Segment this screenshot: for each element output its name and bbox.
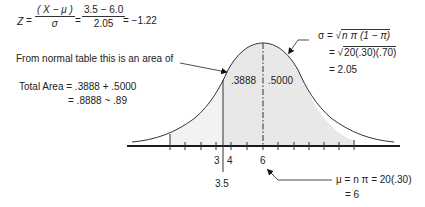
z-fraction-general: ( X − μ ) σ: [35, 4, 75, 29]
axis-label-4: 4: [227, 155, 233, 167]
total-area-line2: = .8888 ~ .89: [68, 95, 127, 107]
mu-line2: = 6: [345, 189, 359, 201]
sigma-line1-prefix: σ = √: [318, 30, 341, 41]
axis-label-3-5: 3.5: [215, 178, 229, 190]
z-equals-2: =: [75, 15, 81, 27]
tail-shading: [170, 80, 223, 146]
mu-line1: μ = n π = 20(.30): [336, 174, 411, 186]
sigma-line1-radicand: n π (1 − π): [341, 29, 390, 41]
mu-arrow: [268, 170, 332, 180]
z-symbol: Z: [17, 15, 23, 27]
z-fraction-values: 3.5 − 6.0 2.05: [82, 4, 125, 29]
z-denominator-general: σ: [35, 17, 75, 29]
z-numerator-values: 3.5 − 6.0: [82, 4, 125, 17]
area-right-label: .5000: [268, 75, 293, 87]
sigma-line2: = √20(.30)(.70): [329, 47, 396, 59]
axis-label-3: 3: [214, 155, 220, 167]
sigma-line2-radicand: 20(.30)(.70): [343, 46, 396, 58]
axis-label-6: 6: [260, 155, 266, 167]
area-left-label: .3888: [231, 75, 256, 87]
sigma-line1: σ = √n π (1 − π): [318, 30, 390, 42]
normal-table-arrow: [180, 63, 226, 72]
z-denominator-values: 2.05: [82, 17, 125, 29]
sigma-line2-prefix: = √: [329, 47, 343, 58]
normal-table-note: From normal table this is an area of: [16, 53, 173, 65]
sigma-arrow: [289, 40, 309, 53]
z-result: = −1.22: [123, 15, 157, 27]
z-equals-1: =: [26, 15, 32, 27]
sigma-line3: = 2.05: [329, 64, 357, 76]
z-numerator-general: ( X − μ ): [35, 4, 75, 17]
total-area-line1: Total Area = .3888 + .5000: [19, 81, 136, 93]
